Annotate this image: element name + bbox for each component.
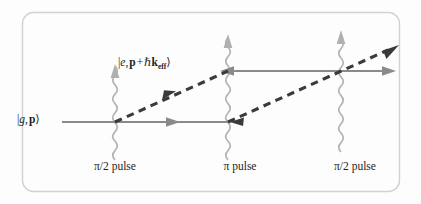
interferometer-diagram: [0, 0, 421, 204]
figure-container: |g, p⟩ |e, p + ℏkeff⟩ π/2 pulse π pulse …: [0, 0, 421, 204]
